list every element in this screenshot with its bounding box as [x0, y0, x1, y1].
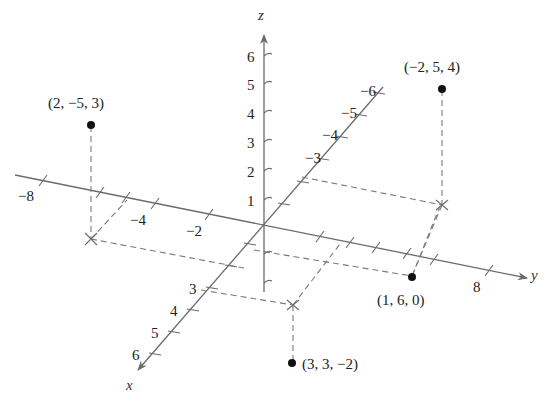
z-tick-label: 6: [247, 49, 255, 65]
z-axis-label: z: [257, 7, 264, 23]
x-axis-label: x: [125, 377, 133, 393]
point-neg2-5-4: [438, 85, 446, 93]
point-label: (2, −5, 3): [48, 95, 104, 112]
x-tick-label: −4: [322, 127, 338, 143]
y-tick-label: 8: [473, 279, 481, 295]
y-tick-label: −2: [186, 223, 202, 239]
y-tick-label: −4: [130, 212, 146, 228]
z-ticks: [264, 53, 272, 283]
y-tick-label: −8: [18, 188, 34, 204]
point-3-3-neg2: [288, 359, 296, 367]
z-tick-label: 3: [247, 135, 255, 151]
point-label: (1, 6, 0): [377, 292, 425, 309]
point-2-neg5-3: [87, 121, 95, 129]
x-axis: [138, 87, 383, 370]
3d-coordinate-diagram: (2, −5, 3) (−2, 5, 4) (1, 6, 0) (3, 3, −…: [0, 0, 552, 409]
x-tick-label: −3: [305, 150, 321, 166]
x-tick-label: 6: [132, 347, 140, 363]
z-tick-label: 4: [247, 106, 255, 122]
z-tick-label: 1: [247, 193, 255, 209]
x-tick-label: 5: [151, 325, 159, 341]
y-axis: [15, 175, 527, 278]
x-tick-label: −5: [341, 105, 357, 121]
point-label: (3, 3, −2): [302, 356, 358, 373]
point-1-6-0: [408, 273, 416, 281]
axes: [15, 35, 527, 370]
y-axis-label: y: [529, 267, 538, 283]
x-tick-label: −6: [360, 83, 376, 99]
z-tick-label: 2: [247, 164, 255, 180]
diagram-canvas: (2, −5, 3) (−2, 5, 4) (1, 6, 0) (3, 3, −…: [0, 0, 552, 409]
z-tick-label: 5: [247, 77, 255, 93]
x-tick-label: 4: [170, 303, 178, 319]
x-tick-label: 3: [189, 281, 197, 297]
point-label: (−2, 5, 4): [404, 59, 460, 76]
